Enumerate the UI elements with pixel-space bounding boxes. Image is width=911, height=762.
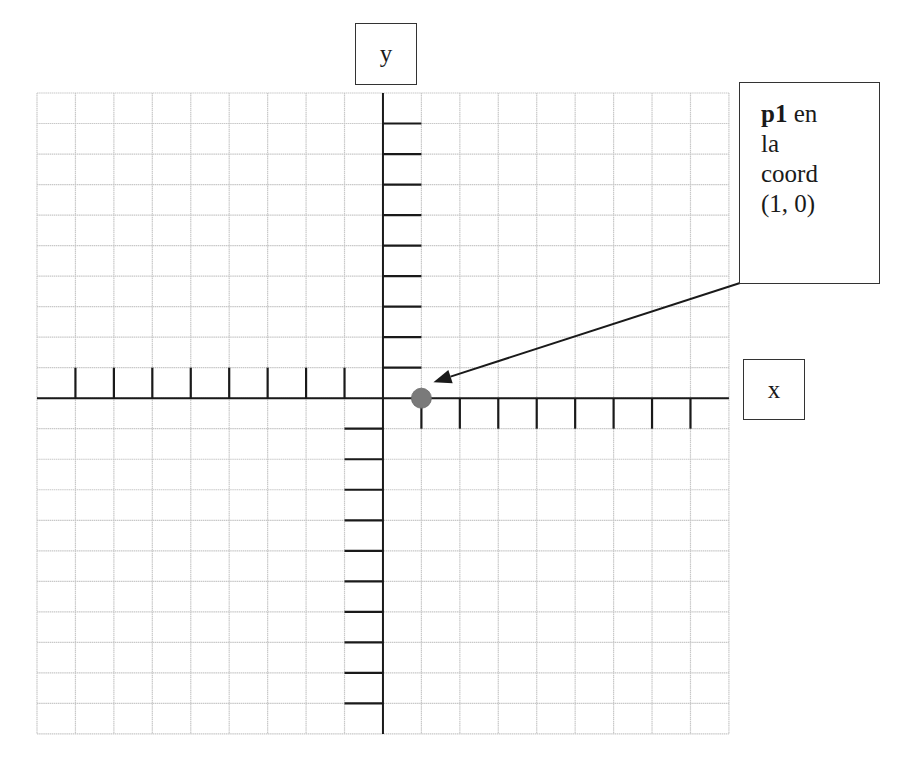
- callout-text-en: en: [787, 100, 817, 127]
- axes: [37, 93, 729, 734]
- callout-line-4: (1, 0): [761, 189, 879, 219]
- callout-line-2: la: [761, 129, 879, 159]
- callout-line-3: coord: [761, 159, 879, 189]
- callout-line-1: p1 en: [761, 99, 879, 129]
- point-p1: [411, 388, 431, 408]
- point-callout: p1 en la coord (1, 0): [739, 82, 880, 284]
- callout-arrow: [433, 283, 740, 383]
- x-axis-label: x: [743, 359, 805, 420]
- y-axis-label-text: y: [380, 40, 393, 68]
- y-axis-label: y: [355, 23, 417, 85]
- callout-point-name: p1: [761, 100, 787, 127]
- x-axis-label-text: x: [768, 376, 781, 404]
